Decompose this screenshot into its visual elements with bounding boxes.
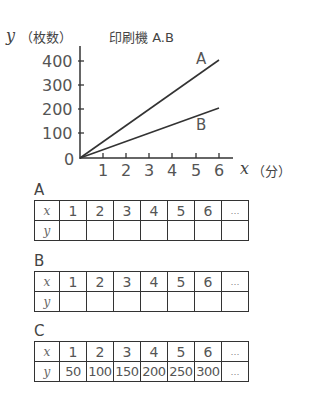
x-tick-6: 6 (214, 161, 224, 180)
cell: 4 (141, 272, 168, 292)
y-header: y (35, 221, 60, 241)
x-tick-4: 4 (167, 161, 177, 180)
cell (168, 221, 195, 241)
table-b-label: B (34, 252, 44, 270)
cell (87, 221, 114, 241)
cell (60, 292, 87, 312)
table-c-label: C (34, 322, 44, 340)
x-header: x (35, 342, 60, 362)
line-a (80, 60, 219, 158)
cell: 3 (114, 272, 141, 292)
cell: 1 (60, 272, 87, 292)
cell: 200 (141, 362, 168, 382)
table-row-x: x 1 2 3 4 5 6 … (35, 342, 249, 362)
table-c: x 1 2 3 4 5 6 … y 50 100 150 200 250 300… (34, 341, 249, 382)
cell (60, 221, 87, 241)
cell: 2 (87, 342, 114, 362)
cell: 2 (87, 272, 114, 292)
cell: … (222, 342, 249, 362)
cell (141, 292, 168, 312)
y-header: y (35, 362, 60, 382)
cell: 4 (141, 342, 168, 362)
table-row-y: y (35, 292, 249, 312)
cell: 5 (168, 342, 195, 362)
table-row-y: y (35, 221, 249, 241)
cell: 3 (114, 342, 141, 362)
cell: … (222, 362, 249, 382)
cell: 2 (87, 201, 114, 221)
x-tick-1: 1 (98, 161, 108, 180)
x-tick-2: 2 (121, 161, 131, 180)
cell: … (222, 201, 249, 221)
cell (195, 221, 222, 241)
cell (114, 221, 141, 241)
table-a-label: A (34, 181, 44, 199)
cell (222, 292, 249, 312)
cell: 6 (195, 201, 222, 221)
cell (168, 292, 195, 312)
cell: 250 (168, 362, 195, 382)
cell: 1 (60, 342, 87, 362)
table-row-y: y 50 100 150 200 250 300 … (35, 362, 249, 382)
cell: 100 (87, 362, 114, 382)
x-tick-5: 5 (191, 161, 201, 180)
cell: 5 (168, 272, 195, 292)
x-axis-unit: （分） (252, 161, 291, 180)
cell (141, 221, 168, 241)
cell: 5 (168, 201, 195, 221)
cell (195, 292, 222, 312)
x-header: x (35, 272, 60, 292)
cell: 300 (195, 362, 222, 382)
x-tick-3: 3 (144, 161, 154, 180)
line-b-label: B (196, 116, 206, 134)
cell (222, 221, 249, 241)
table-b: x 1 2 3 4 5 6 … y (34, 271, 249, 312)
cell: 3 (114, 201, 141, 221)
x-header: x (35, 201, 60, 221)
cell: 1 (60, 201, 87, 221)
x-axis-var: x (240, 159, 249, 178)
y-header: y (35, 292, 60, 312)
line-a-label: A (196, 50, 206, 68)
cell: 6 (195, 342, 222, 362)
cell: … (222, 272, 249, 292)
table-a: x 1 2 3 4 5 6 … y (34, 200, 249, 241)
cell: 150 (114, 362, 141, 382)
table-row-x: x 1 2 3 4 5 6 … (35, 272, 249, 292)
cell: 50 (60, 362, 87, 382)
cell: 6 (195, 272, 222, 292)
cell (114, 292, 141, 312)
cell (87, 292, 114, 312)
cell: 4 (141, 201, 168, 221)
table-row-x: x 1 2 3 4 5 6 … (35, 201, 249, 221)
